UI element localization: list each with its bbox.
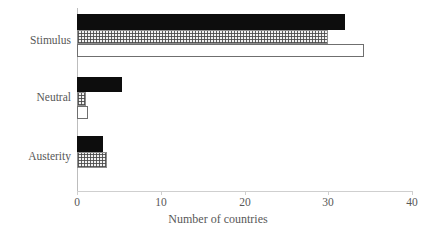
x-tick-mark-20 xyxy=(245,191,246,195)
category-label-neutral: Neutral xyxy=(0,91,71,103)
bar-chart: Stimulus Neutral Austerity 0 10 20 30 40… xyxy=(0,0,436,237)
bar-stimulus-black xyxy=(77,14,345,30)
x-tick-label-30: 30 xyxy=(322,196,334,208)
x-tick-label-0: 0 xyxy=(74,196,80,208)
x-tick-mark-30 xyxy=(328,191,329,195)
x-tick-label-20: 20 xyxy=(239,196,251,208)
bar-austerity-black xyxy=(77,136,103,152)
bar-stimulus-dotted xyxy=(77,30,328,44)
bar-stimulus-white xyxy=(77,44,364,57)
x-axis-title: Number of countries xyxy=(0,212,436,227)
bar-neutral-dotted xyxy=(77,92,86,106)
bar-neutral-black xyxy=(77,77,122,92)
x-tick-mark-40 xyxy=(412,191,413,195)
bar-austerity-dotted xyxy=(77,152,107,168)
category-label-stimulus: Stimulus xyxy=(0,34,71,46)
x-tick-mark-0 xyxy=(77,191,78,195)
x-tick-mark-10 xyxy=(161,191,162,195)
bar-neutral-white xyxy=(77,106,88,119)
category-label-austerity: Austerity xyxy=(0,150,71,162)
x-tick-label-40: 40 xyxy=(406,196,418,208)
x-tick-label-10: 10 xyxy=(155,196,167,208)
